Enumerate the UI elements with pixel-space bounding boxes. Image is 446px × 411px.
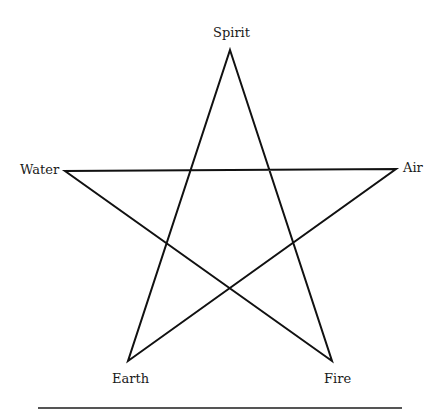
label-water: Water — [20, 163, 59, 176]
pentagram-star — [65, 50, 396, 361]
pentagram-diagram — [0, 0, 446, 411]
label-spirit: Spirit — [213, 26, 250, 39]
horizontal-rule — [38, 407, 402, 409]
label-fire: Fire — [324, 372, 351, 385]
label-earth: Earth — [112, 372, 149, 385]
label-air: Air — [403, 161, 423, 174]
